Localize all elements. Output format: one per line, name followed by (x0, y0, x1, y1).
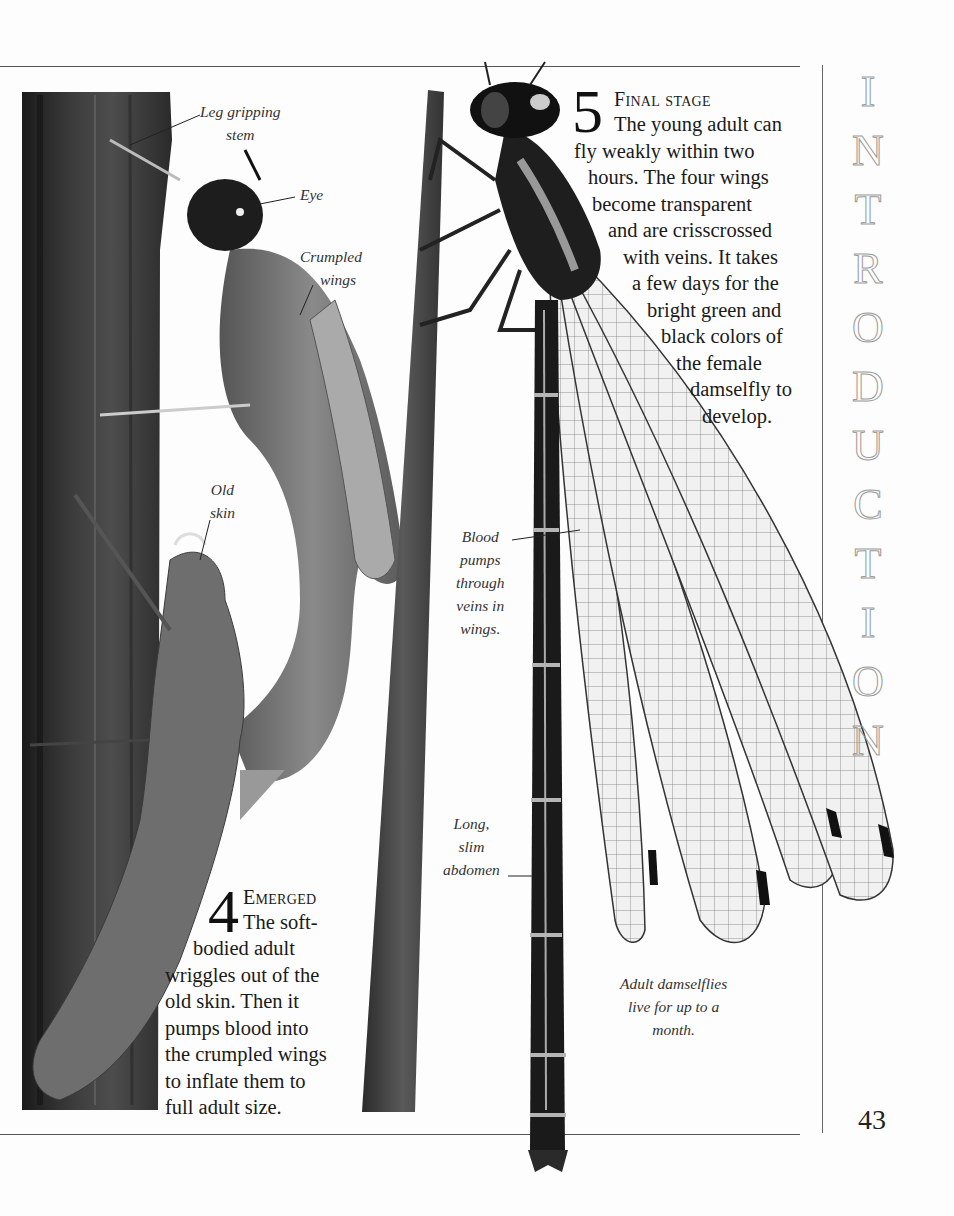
body-line: old skin. Then it (165, 988, 299, 1015)
page-number: 43 (858, 1104, 886, 1136)
body-line: and are crisscrossed (608, 217, 772, 244)
title-letter: O (852, 652, 884, 711)
title-letter: I (861, 62, 876, 121)
body-line: wriggles out of the (165, 962, 319, 989)
body-line: become transparent (592, 191, 752, 218)
label-line: skin (210, 501, 235, 524)
label-line: Blood (456, 525, 505, 548)
body-line: hours. The four wings (588, 164, 769, 191)
body-line: develop. (702, 403, 772, 430)
title-letter: O (852, 298, 884, 357)
body-line: black colors of (661, 323, 783, 350)
label-line: Adult damselflies (620, 972, 727, 995)
title-letter: U (852, 416, 884, 475)
label-line: through (456, 571, 505, 594)
label-line: Long, (443, 812, 500, 835)
label-line: wings. (456, 617, 505, 640)
caption-adult-lifespan: Adult damselflies live for up to a month… (620, 972, 727, 1041)
label-line: wings (314, 268, 362, 291)
body-line: a few days for the (632, 270, 779, 297)
title-letter: I (861, 593, 876, 652)
body-line: The young adult can (614, 111, 782, 138)
label-line: Eye (300, 183, 323, 206)
body-line: full adult size. (165, 1094, 282, 1121)
label-long-slim-abdomen: Long, slim abdomen (443, 812, 500, 881)
title-letter: R (853, 239, 882, 298)
title-letter: N (852, 711, 884, 770)
label-line: slim (443, 835, 500, 858)
section-title-vertical: I N T R O D U C T I O N (838, 62, 898, 770)
title-letter: T (855, 534, 882, 593)
label-line: veins in (456, 594, 505, 617)
stage-5-number: 5 (572, 80, 603, 142)
body-line: the crumpled wings (165, 1041, 327, 1068)
body-line: bodied adult (193, 935, 295, 962)
label-line: Leg gripping (200, 100, 281, 123)
title-letter: C (853, 475, 882, 534)
label-line: live for up to a (620, 995, 727, 1018)
body-line: with veins. It takes (623, 244, 778, 271)
body-line: The soft- (243, 909, 318, 936)
body-line: bright green and (647, 297, 781, 324)
body-line: the female (676, 350, 762, 377)
stage-5-heading: Final stage (614, 86, 711, 112)
body-line: to inflate them to (165, 1068, 306, 1095)
label-crumpled-wings: Crumpled wings (300, 245, 362, 291)
title-letter: N (852, 121, 884, 180)
label-line: abdomen (443, 858, 500, 881)
label-eye: Eye (300, 183, 323, 206)
body-line: damselfly to (690, 376, 792, 403)
label-line: pumps (456, 548, 505, 571)
body-line: fly weakly within two (574, 138, 755, 165)
title-letter: T (855, 180, 882, 239)
label-line: month. (620, 1018, 727, 1041)
label-leg-gripping-stem: Leg gripping stem (200, 100, 281, 146)
stage-4-heading: Emerged (243, 884, 316, 910)
title-letter: D (852, 357, 884, 416)
label-line: Old (210, 478, 235, 501)
label-line: Crumpled (300, 245, 362, 268)
label-line: stem (200, 123, 281, 146)
label-old-skin: Old skin (210, 478, 235, 524)
stage-4-number: 4 (208, 880, 239, 942)
label-blood-pumps: Blood pumps through veins in wings. (456, 525, 505, 640)
body-line: pumps blood into (165, 1015, 309, 1042)
